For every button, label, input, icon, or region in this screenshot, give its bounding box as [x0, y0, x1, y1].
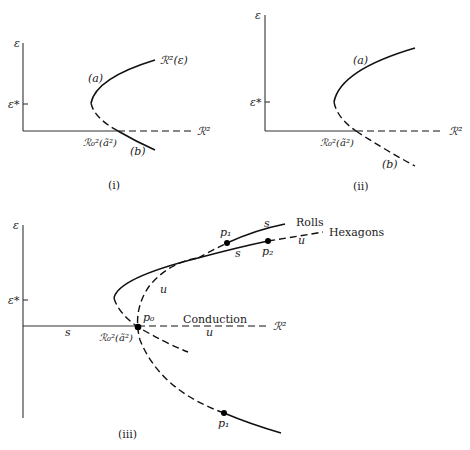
branch-b-label: (b) [382, 158, 398, 171]
branch-a-label: (a) [88, 72, 103, 85]
eps-star-label: ε* [250, 96, 262, 109]
p1-upper-label: p₁ [220, 226, 231, 239]
conduction-label: Conduction [183, 313, 247, 326]
critical-label: ℛ₀²(ã²) [320, 137, 354, 148]
caption-ii: (ii) [353, 180, 369, 193]
bifurcation-diagrams: ε ε* ℛ² ℛ₀²(ã²) ℛ²(ε) (a) (b) (i) ε ε* ℛ… [0, 0, 470, 450]
curve-label: ℛ²(ε) [160, 54, 188, 67]
y-axis-label: ε [13, 219, 19, 232]
hexagon-branch-unstable [268, 232, 323, 241]
panel-ii: ε ε* ℛ² ℛ₀²(ã²) (a) (b) (ii) [250, 9, 462, 193]
rolls-branch-lower-stable [224, 413, 281, 433]
p2-label: p₂ [262, 245, 273, 258]
branch-a-solid [334, 48, 415, 102]
x-axis-label: ℛ² [197, 125, 210, 138]
caption-iii: (iii) [118, 428, 137, 441]
critical-label: ℛ₀²(ã²) [99, 332, 133, 343]
panel-iii: ε ε* ℛ² ℛ₀²(ã²) Conduction Rolls Hexagon… [8, 216, 385, 441]
hexagon-branch-lower-dashed [114, 298, 188, 352]
panel-i: ε ε* ℛ² ℛ₀²(ã²) ℛ²(ε) (a) (b) (i) [8, 37, 210, 192]
branch-a-label: (a) [353, 54, 368, 67]
unstable-label-rolls: u [160, 283, 167, 296]
branch-a-dashed [91, 103, 118, 131]
x-axis-label: ℛ² [273, 320, 286, 333]
hexagons-label: Hexagons [329, 226, 385, 239]
point-p1-lower [221, 410, 227, 416]
critical-label: ℛ₀²(ã²) [83, 137, 117, 148]
unstable-label-hexagons: u [298, 234, 305, 247]
stable-label-conduction: s [65, 326, 71, 339]
x-axis-label: ℛ² [449, 125, 462, 138]
branch-b-label: (b) [130, 145, 146, 158]
eps-star-label: ε* [8, 98, 20, 111]
y-axis-label: ε [255, 9, 261, 22]
caption-i: (i) [108, 179, 120, 192]
rolls-branch-dashed-upper [198, 243, 227, 258]
p1-lower-label: p₁ [218, 417, 229, 430]
rolls-branch-stable [227, 224, 285, 243]
point-p0 [135, 324, 142, 331]
stable-label-rolls: s [264, 217, 270, 230]
y-axis-label: ε [14, 37, 20, 50]
rolls-label: Rolls [296, 216, 324, 229]
hexagon-branch-stable [198, 241, 268, 258]
point-p2 [265, 238, 271, 244]
branch-a-dashed [334, 102, 356, 131]
eps-star-label: ε* [8, 294, 20, 307]
unstable-label-conduction: u [206, 326, 213, 339]
p0-label: p₀ [143, 311, 155, 324]
stable-label-hexagons: s [235, 247, 241, 260]
point-p1-upper [224, 240, 230, 246]
